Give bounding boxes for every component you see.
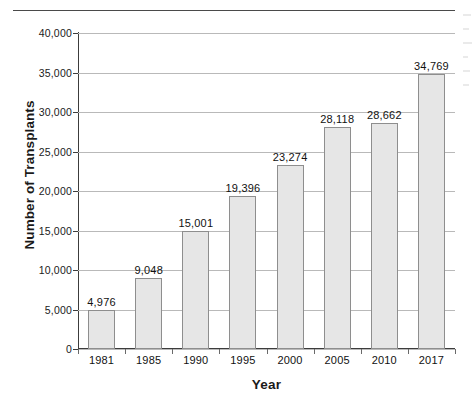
y-tick-label: 0 bbox=[28, 343, 72, 355]
chart-figure: Number of Transplants 05,00010,00015,000… bbox=[0, 0, 474, 407]
x-tick-label: 1985 bbox=[136, 354, 161, 366]
y-tick-label: 25,000 bbox=[28, 146, 72, 158]
y-tick-label: 15,000 bbox=[28, 225, 72, 237]
y-tick-label: 40,000 bbox=[28, 27, 72, 39]
x-axis-tick-labels: 19811985199019952000200520102017 bbox=[78, 0, 455, 407]
x-axis-title: Year bbox=[78, 377, 455, 392]
y-tick-label: 35,000 bbox=[28, 67, 72, 79]
x-tick-label: 2010 bbox=[372, 354, 397, 366]
x-tick-label: 2017 bbox=[419, 354, 444, 366]
y-tick-label: 30,000 bbox=[28, 106, 72, 118]
x-tick-label: 1990 bbox=[183, 354, 208, 366]
page-edge-artifact bbox=[460, 14, 474, 134]
x-tick-label: 1995 bbox=[230, 354, 255, 366]
x-tick-label: 2005 bbox=[325, 354, 350, 366]
x-tick-label: 1981 bbox=[89, 354, 114, 366]
x-tick-label: 2000 bbox=[277, 354, 302, 366]
x-tick-mark bbox=[455, 349, 456, 354]
y-tick-label: 5,000 bbox=[28, 304, 72, 316]
y-tick-label: 10,000 bbox=[28, 264, 72, 276]
y-tick-label: 20,000 bbox=[28, 185, 72, 197]
y-axis-tick-labels: 05,00010,00015,00020,00025,00030,00035,0… bbox=[28, 0, 72, 407]
